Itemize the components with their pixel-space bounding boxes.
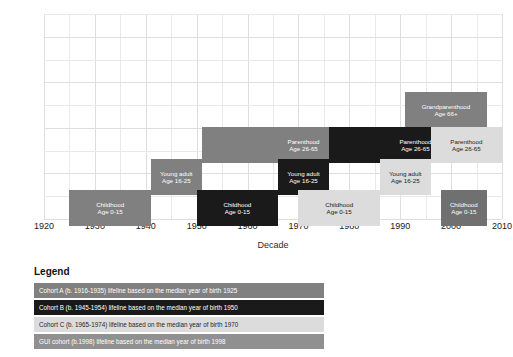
bar-age-label: Age 66+ <box>434 110 457 117</box>
bar-stage-label: Young adult <box>160 170 192 177</box>
gridline-vertical <box>349 14 350 219</box>
gridline-vertical <box>502 14 503 219</box>
gridline-vertical-minor <box>273 14 274 219</box>
bar-grandparenthood: GrandparenthoodAge 66+ <box>405 92 486 128</box>
legend-item: Cohort A (b. 1916-1935) lifeline based o… <box>34 283 324 298</box>
bar-stage-label: Young adult <box>389 170 421 177</box>
gridline-vertical <box>44 14 45 219</box>
bar-age-label: Age 0-15 <box>451 208 476 215</box>
bar-age-label: Age 16-25 <box>162 177 191 184</box>
bar-childhood: ChildhoodAge 0-15 <box>197 190 278 226</box>
gridline-vertical <box>248 14 249 219</box>
legend-item: Cohort C (b. 1965-1974) lifeline based o… <box>34 317 324 332</box>
bar-age-label: Age 0-15 <box>98 208 123 215</box>
x-axis-tick: 2010 <box>492 221 512 231</box>
x-axis-tick: 1920 <box>34 221 54 231</box>
bar-stage-label: Childhood <box>325 201 353 208</box>
bar-age-label: Age 16-25 <box>391 177 420 184</box>
bar-childhood: ChildhoodAge 0-15 <box>69 190 150 226</box>
bar-stage-label: Grandparenthood <box>422 103 471 110</box>
bar-stage-label: Childhood <box>96 201 124 208</box>
bar-young-adult: Young adultAge 16-25 <box>151 159 202 195</box>
bar-childhood: ChildhoodAge 0-15 <box>298 190 379 226</box>
bar-age-label: Age 0-15 <box>225 208 250 215</box>
bar-parenthood: ParenthoodAge 26-65 <box>431 127 502 163</box>
x-axis-label: Decade <box>44 240 502 250</box>
bar-childhood: ChildhoodAge 0-15 <box>441 190 487 226</box>
legend-item: GUI cohort (b.1998) lifeline based on th… <box>34 334 324 349</box>
legend-title: Legend <box>34 266 70 277</box>
gridline-vertical-minor <box>222 14 223 219</box>
bar-stage-label: Childhood <box>223 201 251 208</box>
gridline-vertical-minor <box>375 14 376 219</box>
gridline-horizontal <box>44 60 502 61</box>
bar-stage-label: Parenthood <box>399 138 431 145</box>
gridline-horizontal <box>44 14 502 15</box>
bar-age-label: Age 26-65 <box>289 145 318 152</box>
bar-age-label: Age 26-65 <box>401 145 430 152</box>
gridline-vertical-minor <box>69 14 70 219</box>
bar-stage-label: Young adult <box>287 170 319 177</box>
bar-age-label: Age 0-15 <box>327 208 352 215</box>
life-stage-chart-figure: Life stage ChildhoodAge 0-15Young adultA… <box>0 0 513 357</box>
gridline-horizontal <box>44 82 502 83</box>
gridline-horizontal <box>44 37 502 38</box>
gridline-horizontal <box>44 173 502 174</box>
bar-stage-label: Parenthood <box>288 138 320 145</box>
legend-item: Cohort B (b. 1945-1954) lifeline based o… <box>34 300 324 315</box>
bar-age-label: Age 26-65 <box>452 145 481 152</box>
x-axis-tick: 1990 <box>390 221 410 231</box>
bar-age-label: Age 16-25 <box>289 177 318 184</box>
bar-stage-label: Childhood <box>450 201 478 208</box>
plot-area: ChildhoodAge 0-15Young adultAge 16-25Par… <box>44 14 502 219</box>
gridline-vertical <box>95 14 96 219</box>
gridline-vertical <box>146 14 147 219</box>
bar-young-adult: Young adultAge 16-25 <box>380 159 431 195</box>
gridline-vertical-minor <box>120 14 121 219</box>
bar-stage-label: Parenthood <box>450 138 482 145</box>
